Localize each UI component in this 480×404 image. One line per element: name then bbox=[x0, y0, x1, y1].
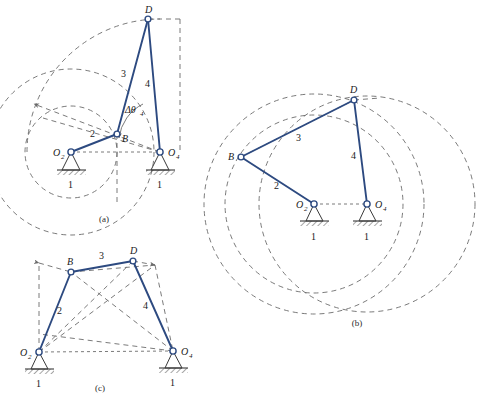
label-O4-sub-a: 4 bbox=[176, 153, 180, 161]
caption-b: (b) bbox=[352, 318, 363, 328]
label-link-1-left-c: 1 bbox=[36, 378, 41, 389]
label-link-3-b: 3 bbox=[296, 132, 301, 143]
label-D-a: D bbox=[144, 4, 153, 15]
label-link-3-c: 3 bbox=[99, 250, 104, 261]
caption-a: (a) bbox=[99, 214, 109, 224]
label-link-1-left-a: 1 bbox=[68, 179, 73, 190]
joint-B-b bbox=[238, 154, 244, 160]
label-O4-sub-c: 4 bbox=[189, 352, 193, 360]
label-B-a: B bbox=[122, 133, 128, 144]
joint-D-c bbox=[130, 258, 136, 264]
label-O2-c: O bbox=[20, 347, 27, 358]
label-link-3-a: 3 bbox=[121, 68, 126, 79]
label-O4-c: O bbox=[181, 346, 188, 357]
label-link-1-right-c: 1 bbox=[170, 377, 175, 388]
label-delta-theta-4-sub: 4 bbox=[140, 110, 144, 118]
pivot-O4-c bbox=[170, 348, 176, 354]
joint-B-c bbox=[68, 269, 74, 275]
label-B-c: B bbox=[67, 256, 73, 267]
label-link-2-b: 2 bbox=[274, 180, 279, 191]
label-link-4-a: 4 bbox=[145, 78, 150, 89]
pivot-O2-a bbox=[68, 149, 74, 155]
linkage-figure: O 2 O 4 B D 2 3 4 1 1 Δθ 4 (a) bbox=[0, 0, 480, 404]
label-O2-b: O bbox=[296, 199, 303, 210]
label-link-1-left-b: 1 bbox=[311, 231, 316, 242]
label-O4-a: O bbox=[168, 147, 175, 158]
caption-c: (c) bbox=[95, 383, 105, 393]
pivot-O2-b bbox=[311, 201, 317, 207]
joint-B-a bbox=[114, 131, 120, 137]
label-link-2-c: 2 bbox=[57, 305, 62, 316]
joint-D-a bbox=[145, 16, 151, 22]
figure-canvas: O 2 O 4 B D 2 3 4 1 1 Δθ 4 (a) bbox=[0, 0, 480, 404]
label-B-b: B bbox=[228, 151, 234, 162]
label-delta-theta-4: Δθ bbox=[124, 104, 136, 115]
label-O2-sub-a: 2 bbox=[61, 153, 65, 161]
pivot-O2-c bbox=[36, 349, 42, 355]
label-D-b: D bbox=[349, 84, 358, 95]
label-O2-sub-b: 2 bbox=[304, 205, 308, 213]
label-O2-sub-c: 2 bbox=[28, 353, 32, 361]
label-link-2-a: 2 bbox=[90, 128, 95, 139]
label-link-1-right-b: 1 bbox=[364, 231, 369, 242]
label-D-c: D bbox=[129, 245, 138, 256]
label-O2-a: O bbox=[53, 147, 60, 158]
pivot-O4-b bbox=[364, 201, 370, 207]
label-O4-sub-b: 4 bbox=[383, 205, 387, 213]
pivot-O4-a bbox=[157, 149, 163, 155]
figure-background bbox=[0, 0, 480, 404]
joint-D-b bbox=[351, 97, 357, 103]
label-O4-b: O bbox=[375, 199, 382, 210]
label-link-1-right-a: 1 bbox=[157, 179, 162, 190]
label-link-4-c: 4 bbox=[143, 300, 148, 311]
label-link-4-b: 4 bbox=[351, 150, 356, 161]
